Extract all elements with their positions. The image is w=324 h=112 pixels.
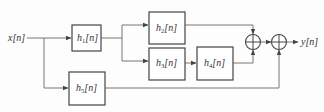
block-h3: h3[n] [149, 48, 185, 80]
block-h1: h1[n] [72, 25, 101, 51]
block-h1-label: h1[n] [77, 32, 98, 44]
diagram-svg: x[n] y[n] h1[n] h2[n] h3[n] h4[n] h5[n] [0, 0, 324, 112]
adder-1 [246, 35, 261, 50]
block-h2-label: h2[n] [156, 22, 177, 34]
block-h2: h2[n] [149, 12, 185, 44]
wire-h4-sum1 [233, 50, 253, 63]
block-h4: h4[n] [197, 47, 233, 80]
adder-2 [272, 35, 287, 50]
block-h4-label: h4[n] [204, 57, 225, 69]
wire-h2-sum1 [185, 25, 253, 34]
input-label: x[n] [7, 32, 25, 43]
block-h5-label: h5[n] [76, 82, 97, 94]
output-label: y[n] [300, 36, 318, 47]
block-h5: h5[n] [69, 72, 105, 105]
wire-x-h5 [44, 38, 68, 88]
block-diagram: x[n] y[n] h1[n] h2[n] h3[n] h4[n] h5[n] [0, 0, 324, 112]
block-h3-label: h3[n] [156, 57, 177, 69]
